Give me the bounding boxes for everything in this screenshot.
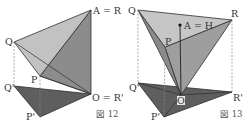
label-Q-13: Q (128, 5, 136, 16)
label-A-12: A = R (92, 5, 122, 16)
label-Rp-13: R' (233, 92, 243, 103)
label-P-13: P (165, 36, 172, 47)
label-Qp-13: Q' (129, 82, 139, 93)
label-R-13: R (231, 8, 239, 19)
label-Qp-12: Q' (4, 82, 14, 93)
label-P-12: P (31, 74, 38, 85)
caption-12: 図 12 (96, 109, 119, 119)
diagram-canvas: Q A = R P Q' O = R' P' 図 12 Q R A = H P (0, 0, 245, 134)
label-O-12: O = R' (92, 92, 124, 103)
label-Pp-13: P' (151, 111, 160, 122)
figure-12: Q A = R P Q' O = R' P' 図 12 (4, 5, 124, 122)
label-O-13: O (177, 95, 185, 106)
label-A-13: A = H (183, 20, 213, 31)
figure-13: Q R A = H P Q' R' O P' 図 13 (128, 5, 243, 122)
label-Pp-12: P' (26, 111, 35, 122)
label-Q-12: Q (5, 36, 13, 47)
point-A-13 (178, 23, 181, 26)
caption-13: 図 13 (220, 109, 243, 119)
